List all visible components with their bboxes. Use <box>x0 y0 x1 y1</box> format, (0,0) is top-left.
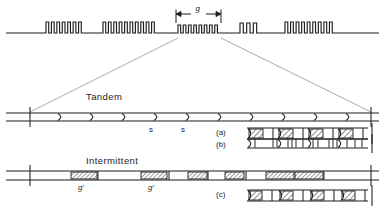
intermittent-title: Intermittent <box>86 155 138 166</box>
tandem-chevron-3 <box>154 114 157 121</box>
row-b-label: (b) <box>216 140 226 149</box>
tandem-chevron-0 <box>58 114 61 121</box>
dim-arrow-right <box>216 11 221 16</box>
intermittent-segment-2 <box>188 172 207 179</box>
signal-waveform-path <box>6 22 379 33</box>
intermittent-segment-1 <box>141 172 167 179</box>
row-a-label: (a) <box>216 128 226 137</box>
intermittent-gprime-label-1: g' <box>148 183 154 192</box>
intermittent-gprime-label-0: g' <box>78 183 84 192</box>
row-b-chevron-2 <box>308 140 311 148</box>
figure-canvas: Tandem Intermittent g ssg'g'(a)(b)(c) <box>0 0 385 212</box>
tandem-chevron-6 <box>250 114 253 121</box>
row-b-chevron-1 <box>278 140 281 148</box>
tandem-s-label-1: s <box>181 125 185 134</box>
tandem-chevron-1 <box>90 114 93 121</box>
tandem-track <box>6 107 379 127</box>
tandem-chevron-5 <box>218 114 221 121</box>
tandem-chevron-8 <box>314 114 317 121</box>
dim-arrow-left <box>176 11 181 16</box>
intermittent-segment-3 <box>225 172 244 179</box>
signal-trace <box>6 22 379 33</box>
expansion-leader-lines <box>30 38 371 112</box>
intermittent-detail-rows <box>247 185 372 206</box>
intermittent-segment-0 <box>71 172 97 179</box>
tandem-detail-rows <box>247 123 372 153</box>
tandem-chevron-9 <box>346 114 349 121</box>
row-c-label: (c) <box>216 190 225 199</box>
intermittent-segment-4 <box>266 172 294 179</box>
tandem-chevron-2 <box>122 114 125 121</box>
tandem-s-label-0: s <box>149 125 153 134</box>
gap-dimension-label: g <box>196 4 200 13</box>
row-b-chevron-0 <box>248 140 251 148</box>
tandem-title: Tandem <box>86 91 122 102</box>
leader-line-right <box>221 38 371 112</box>
intermittent-segment-5 <box>295 172 323 179</box>
tandem-chevron-7 <box>282 114 285 121</box>
tandem-chevron-4 <box>186 114 189 121</box>
intermittent-track <box>6 165 379 186</box>
diagram-vector-layer <box>0 0 385 212</box>
row-b-chevron-3 <box>338 140 341 148</box>
